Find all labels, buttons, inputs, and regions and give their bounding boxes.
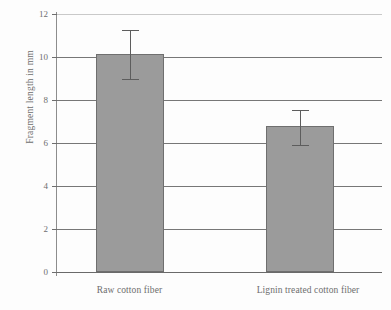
y-tick-label-8: 8 (18, 95, 48, 105)
bar-chart: Fragment length in mm 0 2 4 6 8 10 12 (0, 0, 391, 310)
gridline-12 (57, 14, 382, 15)
error-bar-cap-lower-raw-cotton-fiber (122, 79, 139, 80)
y-tick-label-12: 12 (18, 9, 48, 19)
y-tick-label-6: 6 (18, 138, 48, 148)
x-category-label-lignin-treated-cotton-fiber: Lignin treated cotton fiber (228, 285, 388, 295)
y-tick-label-0: 0 (18, 267, 48, 277)
error-bar-cap-upper-raw-cotton-fiber (122, 30, 139, 31)
error-bar-stem-lignin-treated-cotton-fiber (300, 110, 301, 145)
y-tick-label-10: 10 (18, 52, 48, 62)
gridline-0 (57, 272, 382, 273)
error-bar-cap-lower-lignin-treated-cotton-fiber (292, 145, 309, 146)
error-bar-stem-raw-cotton-fiber (130, 30, 131, 79)
y-tick-label-4: 4 (18, 181, 48, 191)
bar-raw-cotton-fiber (96, 54, 164, 272)
error-bar-cap-upper-lignin-treated-cotton-fiber (292, 110, 309, 111)
x-category-label-raw-cotton-fiber: Raw cotton fiber (56, 285, 203, 295)
bar-lignin-treated-cotton-fiber (266, 126, 334, 272)
y-tick-label-2: 2 (18, 224, 48, 234)
plot-area (57, 14, 382, 272)
